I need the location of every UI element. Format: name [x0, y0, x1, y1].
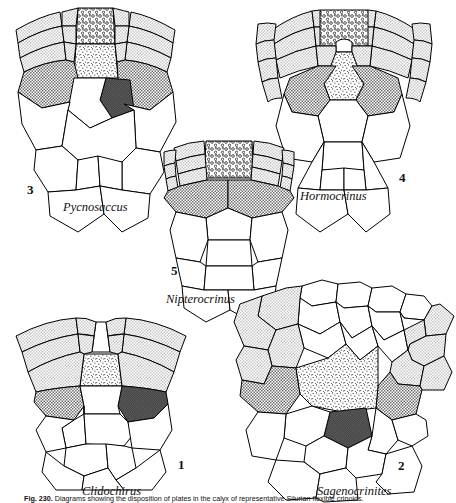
light-stipple-plate [62, 26, 76, 44]
white-plate [76, 156, 100, 190]
figure-caption: Fig. 230. Diagrams showing the dispositi… [24, 494, 454, 503]
genus-label-hormocrinus: Hormocrinus [300, 189, 367, 204]
panel-3-pycnosaccus [16, 8, 176, 232]
circles-plate [204, 141, 254, 178]
white-plate [84, 414, 132, 446]
light-stipple-plate [113, 8, 129, 26]
panel-2-sagenocrinites [234, 280, 454, 502]
light-stipple-plate [62, 8, 78, 26]
white-plate [98, 156, 122, 190]
white-plate [336, 39, 352, 52]
light-stipple-plate [78, 334, 94, 354]
figure-number-1: 1 [178, 457, 185, 473]
light-stipple-plate [368, 10, 376, 27]
caption-prefix: Fig. 230. [24, 494, 53, 503]
genus-label-nipterocrinus: Nipterocrinus [166, 292, 235, 307]
panel-1-clidochirus [16, 318, 186, 490]
white-plate [170, 212, 208, 262]
circles-plate [76, 8, 115, 44]
medium-gray-plate [34, 386, 84, 420]
white-plate [246, 412, 286, 460]
light-stipple-plate [64, 42, 76, 62]
fine-stipple-plate [80, 354, 122, 386]
crinoid-plate-figure [0, 0, 456, 503]
fine-stipple-plate [74, 44, 118, 78]
figure-number-4: 4 [399, 170, 406, 186]
white-plate [368, 286, 406, 312]
light-stipple-plate [262, 78, 282, 102]
white-plate [80, 386, 122, 414]
caption-text: Diagrams showing the disposition of plat… [55, 494, 364, 503]
genus-label-pycnosaccus: Pycnosaccus [63, 200, 128, 215]
white-plate [336, 282, 372, 308]
light-stipple-plate [106, 318, 126, 336]
light-stipple-plate [108, 334, 124, 354]
white-plate [320, 168, 344, 190]
white-plate [252, 258, 282, 290]
light-stipple-plate [115, 26, 129, 44]
white-plate [206, 240, 252, 266]
white-plate [176, 258, 206, 290]
figure-number-2: 2 [398, 458, 405, 474]
light-stipple-plate [312, 10, 320, 27]
white-plate [344, 168, 366, 190]
light-stipple-plate [115, 42, 127, 62]
light-stipple-plate [76, 318, 96, 336]
white-plate [322, 142, 364, 170]
white-plate [250, 212, 288, 262]
light-stipple-plate [406, 78, 426, 102]
figure-number-5: 5 [171, 263, 178, 279]
figure-number-3: 3 [27, 182, 34, 198]
white-plate [318, 100, 368, 142]
white-plate [204, 266, 254, 290]
